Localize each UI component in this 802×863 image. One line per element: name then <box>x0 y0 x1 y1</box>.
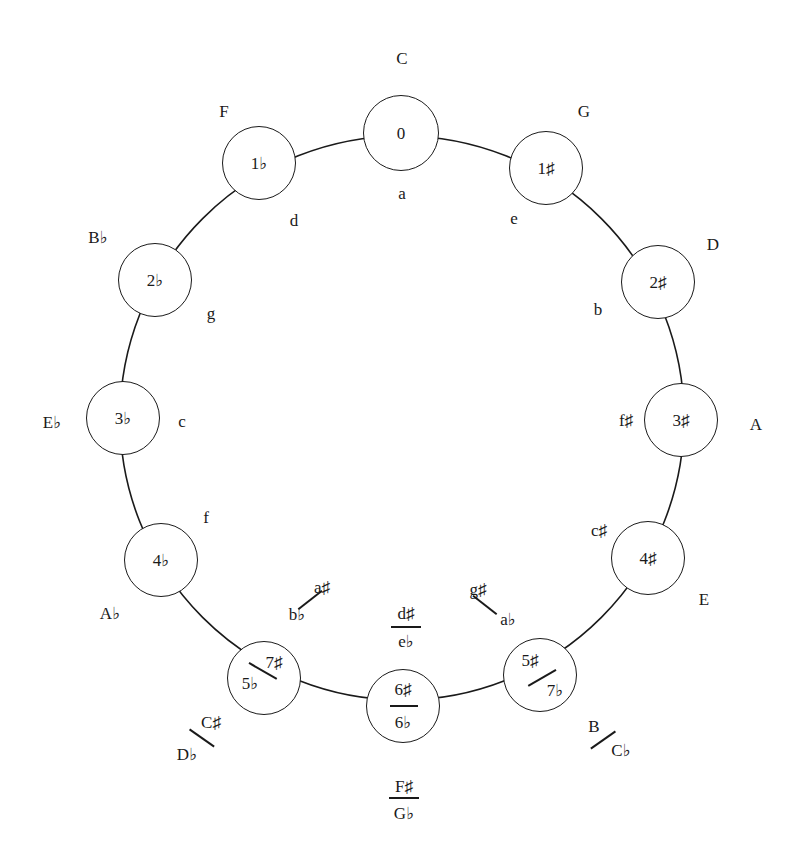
enharmonic-bar <box>389 797 419 799</box>
count-5-flat: 5♭ <box>242 675 259 692</box>
count-3-flat: 3♭ <box>115 410 132 427</box>
minor-label-d-sharp: d♯ <box>398 605 415 622</box>
major-label-b: B <box>588 718 599 735</box>
count-2-sharp: 2♯ <box>650 274 667 291</box>
minor-label-a-flat: a♭ <box>500 611 516 628</box>
major-label-e: E <box>699 591 709 608</box>
major-label-g: G <box>578 103 590 120</box>
count-1-sharp: 1♯ <box>538 160 555 177</box>
count-2-flat: 2♭ <box>147 272 164 289</box>
count-4-flat: 4♭ <box>153 552 170 569</box>
count-7-flat: 7♭ <box>547 682 564 699</box>
minor-label-c: c <box>178 413 186 430</box>
minor-label-e-flat: e♭ <box>398 633 414 650</box>
major-label-a-flat: A♭ <box>100 605 120 622</box>
major-label-c-flat: C♭ <box>611 742 630 759</box>
minor-label-f: f <box>203 509 209 526</box>
minor-label-g: g <box>207 305 216 322</box>
divider-bar <box>390 705 418 707</box>
node-5-sharp-7-flat <box>503 638 577 712</box>
minor-label-e: e <box>510 210 518 227</box>
major-label-c: C <box>396 50 407 67</box>
enharmonic-bar <box>391 626 421 628</box>
count-1-flat: 1♭ <box>251 155 268 172</box>
minor-label-b-flat: b♭ <box>289 606 306 623</box>
major-label-d-flat: D♭ <box>177 746 197 763</box>
major-label-a: A <box>750 416 762 433</box>
count-6-flat: 6♭ <box>395 714 412 731</box>
minor-label-d: d <box>290 212 299 229</box>
minor-label-b: b <box>594 301 603 318</box>
circle-of-fifths-diagram: 0 1♯ 2♯ 3♯ 4♯ 4♭ 3♭ 2♭ 1♭ 5♯ 7♭ 6♯ 6♭ 7♯… <box>0 0 802 863</box>
minor-label-f-sharp: f♯ <box>619 412 633 429</box>
minor-label-c-sharp: c♯ <box>591 522 607 539</box>
minor-label-a: a <box>398 185 406 202</box>
count-6-sharp: 6♯ <box>395 681 412 698</box>
major-label-c-sharp: C♯ <box>201 714 221 731</box>
major-label-b-flat: B♭ <box>88 229 107 246</box>
major-label-f: F <box>219 103 228 120</box>
major-label-d: D <box>707 236 719 253</box>
count-7-sharp: 7♯ <box>266 654 283 671</box>
count-0: 0 <box>397 125 406 142</box>
major-label-e-flat: E♭ <box>43 414 61 431</box>
count-4-sharp: 4♯ <box>640 550 657 567</box>
count-3-sharp: 3♯ <box>673 412 690 429</box>
major-label-f-sharp: F♯ <box>395 778 413 795</box>
node-7-sharp-5-flat <box>227 641 301 715</box>
count-5-sharp: 5♯ <box>522 652 539 669</box>
major-label-g-flat: G♭ <box>394 805 414 822</box>
